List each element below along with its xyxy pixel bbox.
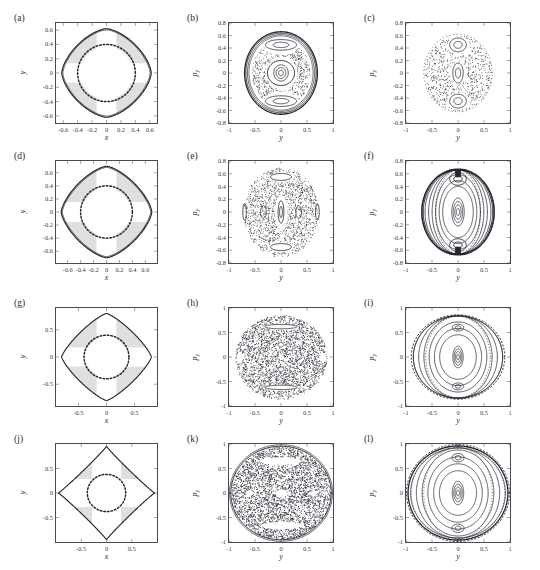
- xtick-l-4: 1: [497, 545, 523, 552]
- panel-label-l: (l): [364, 434, 373, 444]
- ytick-l-0: -1: [381, 538, 403, 545]
- xaxis-label-l: y: [438, 552, 478, 561]
- panel-l: (l)-1-0.500.51-1-0.500.51ypy: [0, 0, 540, 570]
- xtick-l-1: -0.5: [419, 545, 445, 552]
- plot-area-l: [405, 443, 511, 543]
- xtick-l-0: -1: [393, 545, 419, 552]
- xtick-l-3: 0.5: [471, 545, 497, 552]
- xtick-l-2: 0: [445, 545, 471, 552]
- yaxis-label-l: py: [367, 486, 378, 500]
- figure-panel-grid: (a)-0.6-0.4-0.200.20.40.6-0.6-0.4-0.200.…: [0, 0, 540, 570]
- ytick-l-4: 1: [381, 440, 403, 447]
- ytick-l-3: 0.5: [381, 465, 403, 472]
- ytick-l-2: 0: [381, 489, 403, 496]
- ytick-l-1: -0.5: [381, 514, 403, 521]
